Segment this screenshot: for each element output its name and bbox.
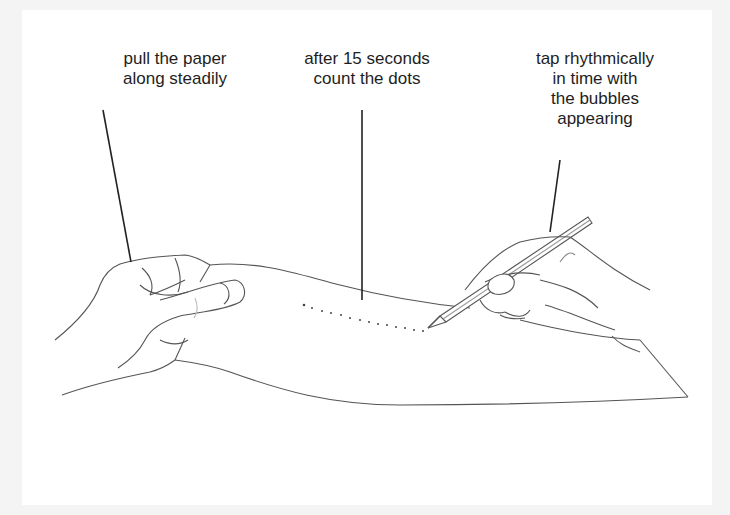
leader-pull: [103, 110, 131, 262]
annotation-line: in time with: [500, 69, 690, 89]
paper-strip: [175, 264, 688, 405]
annotation-line: tap rhythmically: [500, 49, 690, 69]
left-hand: [55, 255, 245, 395]
annotation-line: pull the paper: [85, 49, 265, 69]
pencil: [428, 217, 592, 328]
annotation-count-dots: after 15 seconds count the dots: [272, 49, 462, 89]
annotation-line: after 15 seconds: [272, 49, 462, 69]
annotation-tap-rhythm: tap rhythmically in time with the bubble…: [500, 49, 690, 129]
annotation-line: appearing: [500, 109, 690, 129]
annotation-pull-paper: pull the paper along steadily: [85, 49, 265, 89]
leader-tap: [550, 160, 560, 232]
annotation-line: the bubbles: [500, 89, 690, 109]
right-hand: [465, 237, 650, 352]
annotation-line: count the dots: [272, 69, 462, 89]
dot-trail: [303, 304, 424, 332]
leader-lines: [103, 110, 560, 300]
annotation-line: along steadily: [85, 69, 265, 89]
